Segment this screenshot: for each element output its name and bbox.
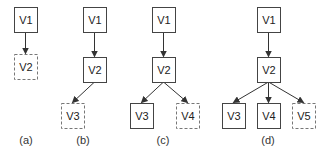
node-label: V3 <box>135 110 148 122</box>
node-v2: V2 <box>84 58 107 83</box>
node-label: V2 <box>88 64 101 76</box>
panel-caption: (d) <box>261 134 274 146</box>
node-v5-new: V5 <box>293 104 316 129</box>
panel-caption: (b) <box>76 134 89 146</box>
node-v3-new: V3 <box>62 104 85 129</box>
node-v1: V1 <box>153 8 176 33</box>
panel-c: V1V2V3V4(c) <box>131 8 200 147</box>
node-v1: V1 <box>84 8 107 33</box>
edge-arrow-v2-v3 <box>73 82 95 103</box>
node-label: V1 <box>262 14 275 26</box>
node-v2-new: V2 <box>15 55 38 80</box>
panel-d: V1V2V3V4V5(d) <box>223 8 316 147</box>
node-v1: V1 <box>15 8 38 33</box>
edge-arrow-v2-v4 <box>164 82 188 103</box>
panel-a: V1V2(a) <box>15 8 38 147</box>
node-label: V3 <box>66 110 79 122</box>
node-label: V1 <box>19 14 32 26</box>
node-label: V4 <box>181 110 194 122</box>
node-label: V1 <box>157 14 170 26</box>
node-v4-new: V4 <box>177 104 200 129</box>
node-label: V4 <box>262 110 275 122</box>
edge-arrow-v2-v3 <box>142 82 164 103</box>
node-label: V2 <box>262 64 275 76</box>
node-label: V5 <box>297 110 310 122</box>
node-v1: V1 <box>258 8 281 33</box>
node-v3: V3 <box>223 104 246 129</box>
edge-arrow-v2-v3 <box>234 82 269 103</box>
node-label: V1 <box>88 14 101 26</box>
node-v4: V4 <box>258 104 281 129</box>
panel-caption: (c) <box>157 134 170 146</box>
node-label: V3 <box>227 110 240 122</box>
panel-b: V1V2V3(b) <box>62 8 107 147</box>
node-label: V2 <box>19 61 32 73</box>
panel-caption: (a) <box>19 134 32 146</box>
tree-growth-diagram: V1V2(a)V1V2V3(b)V1V2V3V4(c)V1V2V3V4V5(d) <box>0 0 327 155</box>
node-v2: V2 <box>153 58 176 83</box>
node-v2: V2 <box>258 58 281 83</box>
node-label: V2 <box>157 64 170 76</box>
node-v3: V3 <box>131 104 154 129</box>
edge-arrow-v2-v5 <box>269 82 304 103</box>
